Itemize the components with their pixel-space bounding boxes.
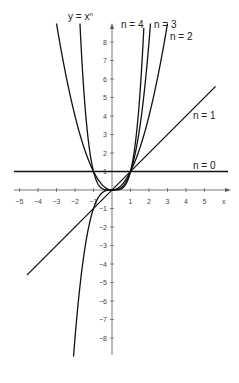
axes: −5−4−3−2−112345−8−7−6−5−4−3−2−112345678: [14, 23, 231, 355]
y-tick-label: −7: [99, 316, 107, 323]
x-tick-label: −3: [53, 198, 61, 205]
y-tick-label: 3: [103, 131, 107, 138]
y-tick-label: −8: [99, 335, 107, 342]
x-tick-label: 2: [147, 198, 151, 205]
x-tick-label: 4: [184, 198, 188, 205]
y-tick-label: 5: [103, 94, 107, 101]
y-tick-label: 7: [103, 57, 107, 64]
y-tick-label: −1: [99, 205, 107, 212]
label-n0: n = 0: [193, 160, 216, 171]
x-tick-label: 3: [166, 198, 170, 205]
x-tick-label: 1: [129, 198, 133, 205]
x-axis-label: x: [222, 198, 226, 205]
y-tick-label: 2: [103, 150, 107, 157]
x-axis-arrow-icon: [225, 188, 231, 192]
y-tick-label: −4: [99, 261, 107, 268]
label-n3: n = 3: [154, 19, 177, 30]
curve-n1: [27, 86, 216, 275]
y-axis-label: y = xn: [68, 11, 93, 22]
y-tick-label: −6: [99, 298, 107, 305]
x-tick-label: −2: [71, 198, 79, 205]
x-tick-label: −4: [34, 198, 42, 205]
power-functions-plot: −5−4−3−2−112345−8−7−6−5−4−3−2−112345678 …: [0, 0, 239, 383]
y-tick-label: 4: [103, 113, 107, 120]
y-tick-label: 8: [103, 39, 107, 46]
x-tick-label: 5: [203, 198, 207, 205]
x-tick-label: −5: [16, 198, 24, 205]
y-tick-label: −3: [99, 242, 107, 249]
y-tick-label: −2: [99, 224, 107, 231]
y-tick-label: −5: [99, 279, 107, 286]
label-n2: n = 2: [170, 31, 193, 42]
y-axis-arrow-icon: [110, 23, 114, 29]
y-tick-label: 6: [103, 76, 107, 83]
label-n1: n = 1: [193, 110, 216, 121]
label-n4: n = 4: [121, 19, 144, 30]
